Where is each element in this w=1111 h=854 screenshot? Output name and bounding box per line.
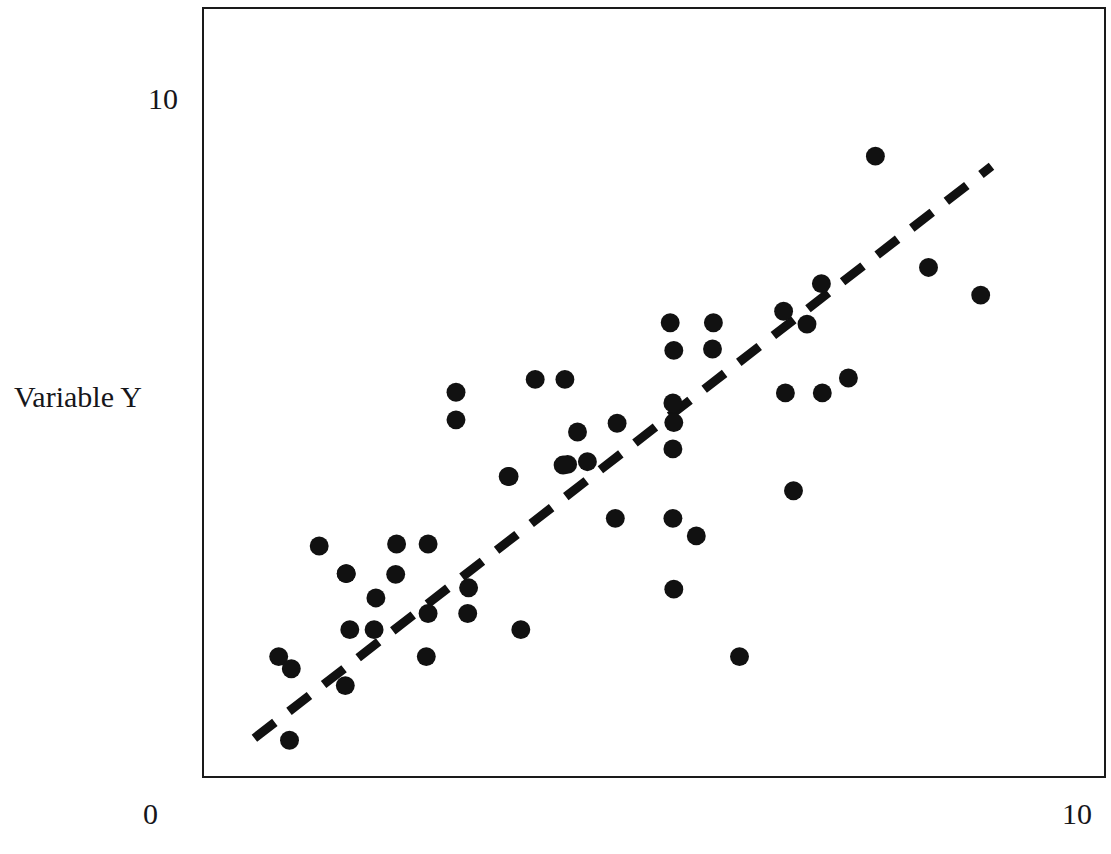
data-point — [280, 731, 299, 750]
data-point — [447, 410, 466, 429]
data-point — [555, 370, 574, 389]
data-point — [419, 535, 438, 554]
data-point — [606, 509, 625, 528]
data-point — [336, 676, 355, 695]
data-point — [459, 578, 478, 597]
data-point — [774, 302, 793, 321]
data-point — [703, 340, 722, 359]
data-point — [798, 315, 817, 334]
data-point — [387, 535, 406, 554]
y-axis-tick-label-top: 10 — [148, 82, 178, 116]
data-point — [664, 341, 683, 360]
data-point — [784, 481, 803, 500]
data-point — [310, 537, 329, 556]
data-point — [664, 413, 683, 432]
data-points-layer — [269, 147, 990, 750]
x-axis-tick-label-left: 0 — [143, 797, 158, 831]
data-point — [366, 588, 385, 607]
data-point — [661, 313, 680, 332]
data-point — [417, 647, 436, 666]
data-point — [340, 620, 359, 639]
data-point — [663, 394, 682, 413]
data-point — [526, 370, 545, 389]
data-point — [663, 509, 682, 528]
x-axis-tick-label-right: 10 — [1062, 797, 1092, 831]
data-point — [919, 258, 938, 277]
data-point — [776, 383, 795, 402]
data-point — [365, 620, 384, 639]
data-point — [608, 414, 627, 433]
data-point — [568, 423, 587, 442]
data-point — [499, 467, 518, 486]
data-point — [282, 659, 301, 678]
data-point — [337, 564, 356, 583]
trend-line — [254, 166, 991, 738]
data-point — [663, 439, 682, 458]
data-point — [386, 565, 405, 584]
scatter-plot-figure: Variable Y 10 0 10 — [0, 0, 1111, 854]
plot-canvas — [204, 9, 1104, 776]
trend-line-layer — [254, 166, 991, 738]
data-point — [687, 526, 706, 545]
data-point — [812, 274, 831, 293]
data-point — [419, 604, 438, 623]
y-axis-title: Variable Y — [14, 380, 142, 414]
data-point — [554, 456, 573, 475]
data-point — [866, 147, 885, 166]
data-point — [704, 313, 723, 332]
data-point — [447, 383, 466, 402]
plot-area-frame — [202, 7, 1106, 778]
data-point — [730, 647, 749, 666]
data-point — [458, 604, 477, 623]
data-point — [664, 580, 683, 599]
data-point — [839, 369, 858, 388]
data-point — [813, 383, 832, 402]
data-point — [578, 452, 597, 471]
data-point — [511, 620, 530, 639]
data-point — [971, 286, 990, 305]
